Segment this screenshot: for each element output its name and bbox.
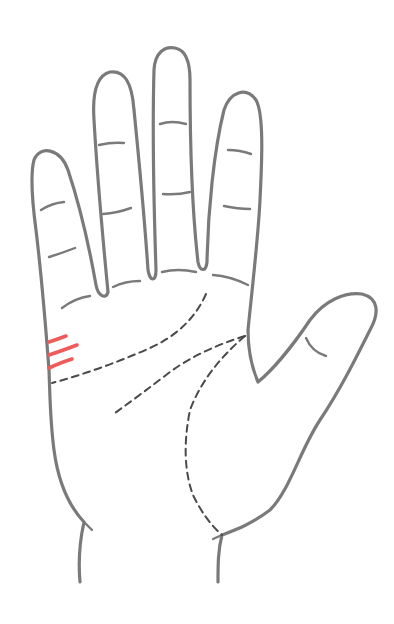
base-crease-ring (113, 281, 140, 287)
palm-illustration: Line drawing of an open right palm with … (0, 0, 394, 624)
marriage-line-3 (49, 359, 72, 368)
ring-crease-1 (99, 143, 124, 145)
heart-line (52, 294, 206, 383)
hand-outline (32, 48, 376, 582)
ring-crease-2 (103, 208, 131, 214)
hand-drawing (0, 0, 394, 624)
life-line (186, 336, 245, 535)
marriage-line-1 (49, 336, 66, 342)
base-crease-index (213, 275, 248, 285)
index-crease-1 (228, 150, 251, 154)
wrist-left-tick (84, 522, 92, 530)
pinky-crease-1 (41, 202, 64, 210)
middle-crease-2 (163, 192, 190, 194)
base-crease-pinky (62, 296, 90, 308)
thumb-crease (306, 338, 326, 356)
marriage-line-2 (49, 345, 77, 355)
middle-crease-1 (160, 122, 186, 124)
pinky-crease-2 (49, 248, 75, 257)
index-crease-2 (224, 206, 250, 209)
base-crease-middle (162, 270, 196, 272)
head-line (115, 336, 245, 413)
